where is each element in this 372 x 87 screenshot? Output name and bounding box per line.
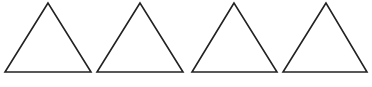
triangle-1-shape xyxy=(5,3,91,72)
triangle-4-shape xyxy=(283,3,367,72)
triangle-2-shape xyxy=(97,3,183,72)
diagram-canvas xyxy=(0,0,372,87)
triangles-diagram xyxy=(0,0,372,87)
triangle-3-shape xyxy=(192,3,277,72)
